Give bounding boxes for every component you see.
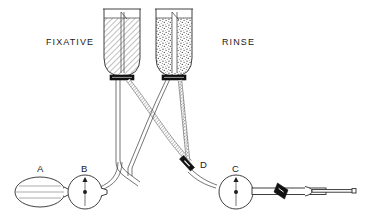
fixative-bottle (103, 9, 141, 80)
label-d: D (200, 159, 207, 170)
tube-d-to-c-inner (191, 169, 217, 185)
tubing-network (100, 79, 217, 190)
tube-d-to-c-outer (188, 172, 216, 188)
cannula-needle (312, 190, 353, 193)
tube-to-valve-b-inner (101, 162, 122, 190)
valve-b-center-dot (83, 190, 87, 194)
tube-fixative-vent-outer (116, 80, 138, 186)
valve-c[interactable] (219, 175, 253, 209)
label-a: A (37, 163, 44, 174)
fixative-bottle-fill (104, 14, 140, 76)
tube-rinse-feed-fill (180, 80, 188, 160)
diagram-canvas: FIXATIVE RINSE A B C D (0, 0, 367, 220)
label-c: C (232, 163, 239, 174)
valve-b-outlet (101, 188, 107, 196)
squeeze-bulb-a[interactable] (15, 177, 70, 207)
fixative-label: FIXATIVE (46, 37, 94, 47)
tube-to-valve-b-outer (100, 162, 118, 187)
valve-b[interactable] (68, 175, 107, 209)
apparatus-diagram: FIXATIVE RINSE A B C D (0, 0, 367, 220)
rinse-dip-tube-interior (172, 12, 177, 73)
rinse-bottle (155, 9, 193, 80)
cannula-clamp-icon[interactable] (274, 183, 288, 199)
cannula-needle-tip-icon (352, 189, 356, 193)
valve-c-center-dot (234, 190, 238, 194)
cannula-assembly[interactable] (252, 183, 356, 199)
rinse-label: RINSE (222, 37, 255, 47)
label-b: B (81, 163, 87, 174)
